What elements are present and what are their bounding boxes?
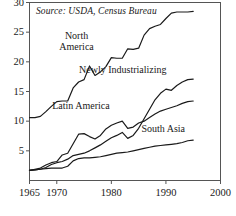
series-label-south-asia: South Asia <box>141 124 185 134</box>
series-label-latin-america: Latin America <box>52 101 109 111</box>
y-tick-label: 20 <box>2 57 24 68</box>
y-tick-label: 10 <box>2 116 24 127</box>
y-axis-tick-marks <box>26 3 30 151</box>
y-tick-label: 5 <box>2 146 24 157</box>
series-label-north-america: NorthAmerica <box>59 30 93 52</box>
data-series-lines <box>30 11 194 170</box>
x-axis-tick-marks <box>30 181 221 185</box>
series-label-newly-industrializing: Newly Industrializing <box>79 65 166 75</box>
y-tick-label: 30 <box>2 0 24 8</box>
x-tick-label: 2000 <box>201 188 236 199</box>
series-line-latin-america <box>30 101 194 170</box>
source-note: Source: USDA, Census Bureau <box>36 7 157 17</box>
x-tick-label: 1980 <box>91 188 131 199</box>
x-tick-label: 1970 <box>37 188 77 199</box>
line-chart-plot <box>0 0 235 216</box>
y-tick-label: 25 <box>2 27 24 38</box>
plot-frame <box>30 3 221 181</box>
chart-figure: 51015202530 19651970198019902000 Source:… <box>0 0 235 216</box>
series-line-south-asia <box>30 140 194 170</box>
y-tick-label: 15 <box>2 87 24 98</box>
x-tick-label: 1990 <box>146 188 186 199</box>
